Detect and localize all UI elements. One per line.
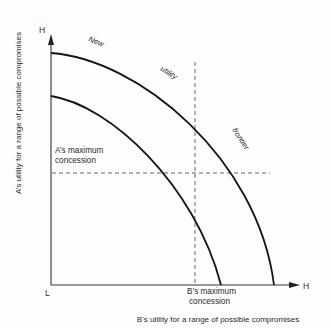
origin-label: L [45, 288, 50, 298]
y-axis-title: A’s utility for a range of possible comp… [14, 32, 23, 194]
x-axis-title: B’s utility for a range of possible comp… [137, 315, 300, 324]
a-max-concession-label-line1: A’s maximum [55, 146, 104, 155]
a-max-concession-label-line2: concession [55, 156, 96, 165]
b-max-concession-label-line2: concession [189, 297, 230, 306]
y-axis-top-label: H [39, 25, 45, 35]
b-max-concession-label-line1: B’s maximum [187, 287, 236, 296]
diagram-canvas: H H L New utility frontier A’s maximum c… [0, 0, 331, 328]
curve-label-utility: utility [159, 64, 180, 82]
x-axis-right-label: H [303, 281, 309, 291]
y-axis-arrow-icon [48, 34, 54, 45]
utility-frontier-diagram: H H L New utility frontier A’s maximum c… [0, 0, 331, 328]
curve-label-new: New [87, 35, 106, 50]
original-utility-frontier-curve [51, 96, 221, 285]
x-axis-arrow-icon [289, 282, 300, 288]
x-axis [51, 282, 300, 288]
y-axis [48, 34, 54, 285]
curve-label-frontier: frontier [230, 126, 251, 152]
new-utility-frontier-curve [51, 53, 274, 285]
